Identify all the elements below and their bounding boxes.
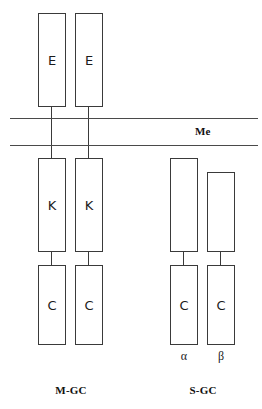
s-gc-subunit-label-alpha: α bbox=[170, 349, 198, 364]
domain-label: C bbox=[179, 299, 188, 312]
domain-label: K bbox=[48, 199, 57, 212]
m-gc-chain-2-domain-kinase: K bbox=[75, 158, 103, 252]
s-gc-chain-beta-linker bbox=[220, 251, 221, 266]
domain-label: C bbox=[47, 299, 56, 312]
m-gc-chain-1-domain-extracellular: E bbox=[38, 13, 66, 107]
group-caption-s-gc: S-GC bbox=[166, 384, 240, 396]
membrane-outer-line bbox=[10, 118, 258, 119]
domain-label: E bbox=[48, 54, 56, 67]
s-gc-chain-alpha-linker bbox=[183, 251, 184, 266]
membrane-inner-line bbox=[10, 145, 258, 146]
domain-label: C bbox=[84, 299, 93, 312]
guanylyl-cyclase-diagram: E E Me K K C C C α C β M-GC S-GC bbox=[0, 0, 262, 409]
s-gc-chain-alpha-domain-cyclase: C bbox=[170, 265, 198, 345]
domain-label: E bbox=[85, 54, 93, 67]
domain-label: K bbox=[85, 199, 94, 212]
m-gc-chain-1-transmembrane-stem bbox=[51, 106, 52, 159]
m-gc-chain-2-kinase-cyclase-linker bbox=[88, 251, 89, 266]
membrane-label: Me bbox=[195, 125, 210, 137]
s-gc-chain-alpha-domain-regulatory bbox=[170, 158, 198, 252]
m-gc-chain-1-domain-kinase: K bbox=[38, 158, 66, 252]
m-gc-chain-2-domain-extracellular: E bbox=[75, 13, 103, 107]
s-gc-chain-beta-domain-regulatory bbox=[207, 172, 235, 252]
m-gc-chain-1-kinase-cyclase-linker bbox=[51, 251, 52, 266]
m-gc-chain-1-domain-cyclase: C bbox=[38, 265, 66, 345]
domain-label: C bbox=[216, 299, 225, 312]
s-gc-chain-beta-domain-cyclase: C bbox=[207, 265, 235, 345]
m-gc-chain-2-domain-cyclase: C bbox=[75, 265, 103, 345]
s-gc-subunit-label-beta: β bbox=[207, 349, 235, 364]
m-gc-chain-2-transmembrane-stem bbox=[88, 106, 89, 159]
group-caption-m-gc: M-GC bbox=[34, 384, 108, 396]
